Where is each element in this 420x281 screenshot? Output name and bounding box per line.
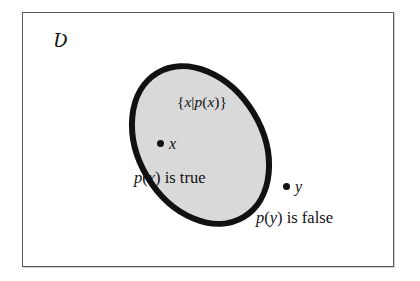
universe-frame: Ʋ xyxy=(22,12,394,267)
point-y-label: y xyxy=(295,179,302,195)
py-caption-verb: is false xyxy=(283,208,333,227)
px-caption-pred: p xyxy=(134,168,142,187)
point-x-label: x xyxy=(169,136,176,152)
point-y-caption: p(y) is false xyxy=(256,210,333,227)
universal-set-symbol: Ʋ xyxy=(53,31,68,50)
point-x-caption: p(x) is true xyxy=(134,170,206,187)
point-x-marker-dot xyxy=(157,140,164,147)
set-builder-label: {x|p(x)} xyxy=(177,94,227,110)
set-diagram-figure: Ʋ {x|p(x)} x p(x) is true y p(y) xyxy=(0,0,420,281)
set-builder-close-brace: } xyxy=(219,93,226,110)
point-y-marker-dot xyxy=(283,183,290,190)
py-caption-pred: p xyxy=(256,208,264,227)
py-caption-arg: y xyxy=(270,208,277,227)
px-caption-arg: x xyxy=(148,168,155,187)
px-caption-verb: is true xyxy=(161,168,206,187)
